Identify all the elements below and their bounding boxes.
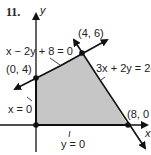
vertex-4-6 <box>79 50 85 56</box>
x-axis-label: x <box>144 127 151 139</box>
constraint-label-1: x − 2y + 8 = 0 <box>6 45 73 57</box>
constraint-label-2: 3x + 2y = 24 <box>96 62 151 74</box>
vertex-label-0-4: (0, 4) <box>6 63 32 75</box>
problem-number: 11. <box>6 5 20 19</box>
vertex-origin <box>33 122 39 128</box>
constraint-label-3: x = 0 <box>8 103 32 115</box>
constraint-label-4: y = 0 <box>61 138 85 150</box>
vertex-label-4-6: (4, 6) <box>78 27 104 39</box>
y-axis-label: y <box>39 4 47 16</box>
vertex-0-4 <box>33 75 39 81</box>
vertex-8-0 <box>125 122 131 128</box>
vertex-label-8-0: (8, 0 <box>127 108 149 120</box>
feasible-region-diagram: 11. y x (4, 6) (0, 4) (8, 0 x − 2y + 8 =… <box>0 0 151 155</box>
